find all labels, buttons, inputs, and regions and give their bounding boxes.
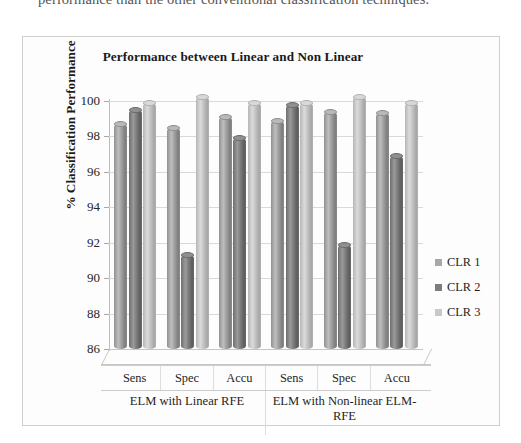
legend-label: CLR 3 xyxy=(447,305,480,320)
bar-body xyxy=(300,103,313,349)
bar-body xyxy=(129,110,142,349)
y-axis-tick-label: 86 xyxy=(87,341,100,357)
legend-label: CLR 2 xyxy=(447,280,480,295)
chart-floor-3d xyxy=(101,349,431,365)
page-body-text-line: performance than the other conventional … xyxy=(38,0,429,8)
bar-cap xyxy=(143,100,156,106)
bar-body xyxy=(353,97,366,349)
bar-body xyxy=(390,156,403,349)
bar-body xyxy=(405,103,418,349)
bar-clr-2-spec-nonlinear xyxy=(338,245,351,350)
legend-entry-clr-2[interactable]: CLR 2 xyxy=(435,280,497,295)
group-axis: ELM with Linear RFEELM with Non-linear E… xyxy=(101,391,431,435)
bar-body xyxy=(233,138,246,349)
bar-body xyxy=(271,121,284,350)
y-axis-tick-label: 94 xyxy=(87,199,100,215)
category-label-spec-nonlinear: Spec xyxy=(318,366,370,390)
bar-clr-3-sens-linear xyxy=(143,103,156,349)
bar-clr-2-accu-nonlinear xyxy=(390,156,403,349)
bar-body xyxy=(248,103,261,349)
category-label-spec-linear: Spec xyxy=(161,366,213,390)
chart-legend: CLR 1CLR 2CLR 3 xyxy=(435,255,497,330)
bar-cap xyxy=(286,102,299,108)
bar-body xyxy=(286,105,299,349)
legend-label: CLR 1 xyxy=(447,255,480,270)
group-label-nonlinear-elm-rfe: ELM with Non-linear ELM-RFE xyxy=(266,391,423,435)
y-axis-tick xyxy=(104,101,109,102)
bar-clr-3-accu-nonlinear xyxy=(405,103,418,349)
bar-clr-3-spec-nonlinear xyxy=(353,97,366,349)
category-label-sens-linear: Sens xyxy=(109,366,161,390)
legend-swatch-icon xyxy=(435,309,442,316)
y-axis-tick xyxy=(104,207,109,208)
bar-cap xyxy=(338,242,351,248)
bar-body xyxy=(196,97,209,349)
y-axis-tick xyxy=(104,136,109,137)
y-axis-tick-label: 98 xyxy=(87,128,100,144)
bar-body xyxy=(143,103,156,349)
bar-clr-3-sens-nonlinear xyxy=(300,103,313,349)
y-axis-tick xyxy=(104,243,109,244)
category-label-accu-nonlinear: Accu xyxy=(371,366,423,390)
bar-clr-2-accu-linear xyxy=(233,138,246,349)
category-label-sens-nonlinear: Sens xyxy=(266,366,318,390)
bar-body xyxy=(376,113,389,349)
y-axis-tick-label: 88 xyxy=(87,305,100,321)
bar-body xyxy=(324,112,337,349)
y-axis-tick-label: 96 xyxy=(87,164,100,180)
floor-top-face xyxy=(109,349,423,350)
legend-swatch-icon xyxy=(435,259,442,266)
chart-figure: Performance between Linear and Non Linea… xyxy=(22,36,500,426)
bar-body xyxy=(181,255,194,349)
bar-body xyxy=(338,245,351,350)
y-axis-tick xyxy=(104,314,109,315)
bar-cap xyxy=(271,118,284,124)
legend-entry-clr-1[interactable]: CLR 1 xyxy=(435,255,497,270)
bar-clr-1-sens-linear xyxy=(114,124,127,349)
bar-clr-1-sens-nonlinear xyxy=(271,121,284,350)
bar-body xyxy=(219,117,232,349)
bar-clr-2-sens-linear xyxy=(129,110,142,349)
legend-entry-clr-3[interactable]: CLR 3 xyxy=(435,305,497,320)
bar-cap xyxy=(405,100,418,106)
bar-clr-1-spec-linear xyxy=(167,128,180,349)
bar-clr-3-accu-linear xyxy=(248,103,261,349)
floor-right-edge xyxy=(423,349,432,365)
category-label-accu-linear: Accu xyxy=(214,366,266,390)
bar-clr-2-sens-nonlinear xyxy=(286,105,299,349)
y-axis-label: % Classification Performance xyxy=(63,5,79,245)
bar-cap xyxy=(219,114,232,120)
bar-cap xyxy=(129,107,142,113)
group-label-linear-rfe: ELM with Linear RFE xyxy=(109,391,266,435)
bar-body xyxy=(114,124,127,349)
floor-left-edge xyxy=(101,349,110,365)
y-axis-tick-label: 100 xyxy=(81,93,101,109)
bar-cap xyxy=(167,125,180,131)
legend-swatch-icon xyxy=(435,284,442,291)
gridline xyxy=(109,101,423,102)
bar-clr-3-spec-linear xyxy=(196,97,209,349)
y-axis-tick xyxy=(104,172,109,173)
bar-body xyxy=(167,128,180,349)
bar-cap xyxy=(300,100,313,106)
y-axis-tick-label: 92 xyxy=(87,234,100,250)
bar-cap xyxy=(248,100,261,106)
bar-clr-1-spec-nonlinear xyxy=(324,112,337,349)
y-axis-tick-label: 90 xyxy=(87,270,100,286)
bar-clr-1-accu-linear xyxy=(219,117,232,349)
bar-clr-2-spec-linear xyxy=(181,255,194,349)
chart-title: Performance between Linear and Non Linea… xyxy=(23,49,443,65)
bar-clr-1-accu-nonlinear xyxy=(376,113,389,349)
y-axis-tick xyxy=(104,278,109,279)
bar-cap xyxy=(324,109,337,115)
category-axis: SensSpecAccuSensSpecAccu xyxy=(101,365,431,391)
plot-area: 86889092949698100 xyxy=(109,101,423,349)
